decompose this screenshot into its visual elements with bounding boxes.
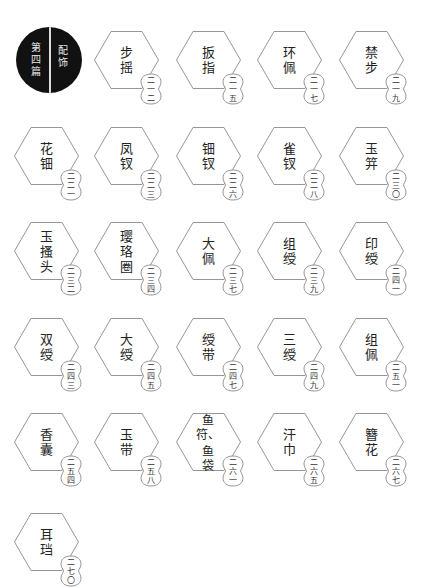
toc-entry[interactable]: 三绶二四九 <box>257 318 327 398</box>
toc-entry[interactable]: 禁步二一九 <box>339 31 409 111</box>
toc-entry[interactable]: 雀钗二二八 <box>257 127 327 207</box>
page-number: 二二一 <box>60 171 82 199</box>
entry-title: 璎珞圈 <box>108 222 144 280</box>
toc-entry[interactable]: 环佩二一七 <box>257 31 327 111</box>
page-number: 二三九 <box>303 266 325 294</box>
page-number-badge: 二六一 <box>222 455 244 487</box>
toc-entry[interactable]: 组佩二五一 <box>339 318 409 398</box>
entry-title: 扳指 <box>190 31 226 89</box>
entry-title: 组绶 <box>271 222 307 280</box>
toc-entry[interactable]: 步摇二一二 <box>94 31 164 111</box>
page-number-badge: 二二八 <box>303 169 325 201</box>
entry-title: 大绶 <box>108 318 144 376</box>
toc-entry[interactable]: 绶带二四七 <box>176 318 246 398</box>
toc-entry[interactable]: 印绶二四一 <box>339 222 409 302</box>
page-number-badge: 二五一 <box>385 360 407 392</box>
chapter-divider <box>49 27 51 93</box>
entry-title: 玉带 <box>108 413 144 471</box>
entry-title: 鱼符、鱼袋 <box>190 413 226 473</box>
toc-entry[interactable]: 汗巾二六五 <box>257 413 327 493</box>
page-number: 二六五 <box>303 457 325 485</box>
page-number-badge: 二三七 <box>222 264 244 296</box>
entry-title: 耳珰 <box>28 513 64 571</box>
page-number-badge: 二二一 <box>60 169 82 201</box>
page-number: 二一五 <box>222 75 244 103</box>
page-number: 二四一 <box>385 266 407 294</box>
page-number-badge: 二一二 <box>140 73 162 105</box>
page-number-badge: 二三九 <box>303 264 325 296</box>
entry-title: 簪花 <box>353 413 389 471</box>
page-number: 二五八 <box>140 457 162 485</box>
entry-title: 印绶 <box>353 222 389 280</box>
entry-title: 禁步 <box>353 31 389 89</box>
page-number: 二四五 <box>140 362 162 390</box>
page-number: 二三二 <box>60 266 82 294</box>
toc-entry[interactable]: 玉带二五八 <box>94 413 164 493</box>
page-number-badge: 二二六 <box>222 169 244 201</box>
entry-title: 香囊 <box>28 413 64 471</box>
toc-entry[interactable]: 组绶二三九 <box>257 222 327 302</box>
entry-title: 三绶 <box>271 318 307 376</box>
page-number: 二二六 <box>222 171 244 199</box>
page-number: 二一九 <box>385 75 407 103</box>
page-number: 二七〇 <box>60 557 82 585</box>
toc-entry[interactable]: 花钿二二一 <box>14 127 84 207</box>
page-number-badge: 二六五 <box>303 455 325 487</box>
entry-title: 环佩 <box>271 31 307 89</box>
page-number: 二六一 <box>222 457 244 485</box>
toc-entry[interactable]: 香囊二五四 <box>14 413 84 493</box>
toc-entry[interactable]: 大绶二四五 <box>94 318 164 398</box>
toc-entry[interactable]: 扳指二一五 <box>176 31 246 111</box>
entry-title: 双绶 <box>28 318 64 376</box>
entry-title: 凤钗 <box>108 127 144 185</box>
entry-title: 玉笄 <box>353 127 389 185</box>
page-number-badge: 二六七 <box>385 455 407 487</box>
page-number-badge: 二一七 <box>303 73 325 105</box>
page-number: 二二三 <box>140 171 162 199</box>
toc-entry[interactable]: 双绶二四三 <box>14 318 84 398</box>
toc-entry[interactable]: 凤钗二二三 <box>94 127 164 207</box>
entry-title: 步摇 <box>108 31 144 89</box>
chapter-badge: 第 四 篇 配 饰 <box>16 27 82 93</box>
page-number-badge: 二三二 <box>60 264 82 296</box>
page-number: 二四七 <box>222 362 244 390</box>
page-number-badge: 二一九 <box>385 73 407 105</box>
page-number-badge: 二七〇 <box>60 555 82 587</box>
chapter-number: 第 四 篇 <box>26 27 46 93</box>
chapter-title: 配 饰 <box>53 27 73 90</box>
toc-entry[interactable]: 玉笄二三〇 <box>339 127 409 207</box>
page-number: 二三〇 <box>385 171 407 199</box>
entry-title: 绶带 <box>190 318 226 376</box>
entry-title: 组佩 <box>353 318 389 376</box>
page-number-badge: 二一五 <box>222 73 244 105</box>
page-number: 二四三 <box>60 362 82 390</box>
entry-title: 玉搔头 <box>28 222 64 280</box>
page-number: 二一二 <box>140 75 162 103</box>
page-number-badge: 二五四 <box>60 455 82 487</box>
page-number-badge: 二三〇 <box>385 169 407 201</box>
entry-title: 大佩 <box>190 222 226 280</box>
entry-title: 花钿 <box>28 127 64 185</box>
page-number-badge: 二五八 <box>140 455 162 487</box>
entry-title: 雀钗 <box>271 127 307 185</box>
toc-entry[interactable]: 大佩二三七 <box>176 222 246 302</box>
page-number: 二二八 <box>303 171 325 199</box>
page-number-badge: 二四一 <box>385 264 407 296</box>
page-number-badge: 二四七 <box>222 360 244 392</box>
toc-entry[interactable]: 璎珞圈二三四 <box>94 222 164 302</box>
toc-entry[interactable]: 钿钗二二六 <box>176 127 246 207</box>
page-number-badge: 二四三 <box>60 360 82 392</box>
page-number: 二三七 <box>222 266 244 294</box>
page-number-badge: 二二三 <box>140 169 162 201</box>
page-number-badge: 二四五 <box>140 360 162 392</box>
page-number: 二六七 <box>385 457 407 485</box>
page-number: 二一七 <box>303 75 325 103</box>
page-number: 二五四 <box>60 457 82 485</box>
toc-entry[interactable]: 玉搔头二三二 <box>14 222 84 302</box>
page-number-badge: 二四九 <box>303 360 325 392</box>
toc-entry[interactable]: 耳珰二七〇 <box>14 513 84 588</box>
page-number: 二五一 <box>385 362 407 390</box>
toc-entry[interactable]: 簪花二六七 <box>339 413 409 493</box>
toc-entry[interactable]: 鱼符、鱼袋二六一 <box>176 413 246 493</box>
page-number-badge: 二三四 <box>140 264 162 296</box>
